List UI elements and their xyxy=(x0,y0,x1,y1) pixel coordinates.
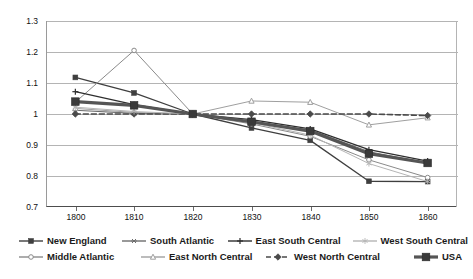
series-layer xyxy=(46,21,457,207)
legend-item-west-south-central[interactable]: West South Central xyxy=(352,233,468,248)
y-tick-label: 0.8 xyxy=(2,172,38,181)
legend-item-east-north-central[interactable]: East North Central xyxy=(140,249,265,264)
east-south-central-marker-icon xyxy=(227,235,253,247)
y-tick-label: 0.7 xyxy=(2,203,38,212)
y-tick-label: 0.9 xyxy=(2,141,38,150)
legend-row: New England South Atlantic East South Ce… xyxy=(18,233,468,248)
x-tick-label: 1860 xyxy=(404,213,452,222)
legend-item-east-south-central[interactable]: East South Central xyxy=(227,233,352,248)
x-tick-label: 1810 xyxy=(110,213,158,222)
legend-label: East North Central xyxy=(169,251,252,263)
legend-label: East South Central xyxy=(256,235,341,247)
x-tick-label: 1800 xyxy=(52,213,100,222)
west-north-central-marker-icon xyxy=(265,251,291,263)
x-tick-label: 1840 xyxy=(287,213,335,222)
x-tick xyxy=(311,207,312,211)
legend-item-middle-atlantic[interactable]: Middle Atlantic xyxy=(18,249,140,264)
x-tick-label: 1830 xyxy=(228,213,276,222)
legend-label: West South Central xyxy=(381,235,468,247)
legend-row: Middle Atlantic East North Central West … xyxy=(18,249,468,264)
legend-label: South Atlantic xyxy=(150,235,214,247)
legend-item-usa[interactable]: USA xyxy=(413,249,462,264)
legend-label: West North Central xyxy=(294,251,380,263)
chart-legend: New England South Atlantic East South Ce… xyxy=(18,233,468,269)
east-north-central-marker-icon xyxy=(140,251,166,263)
x-tick xyxy=(369,207,370,211)
west-south-central-marker-icon xyxy=(352,235,378,247)
legend-label: New England xyxy=(47,235,107,247)
legend-item-west-north-central[interactable]: West North Central xyxy=(265,249,413,264)
x-tick-label: 1820 xyxy=(169,213,217,222)
x-tick xyxy=(252,207,253,211)
x-tick xyxy=(193,207,194,211)
new-england-marker-icon xyxy=(18,235,44,247)
usa-marker-icon xyxy=(413,251,439,263)
y-tick-label: 1 xyxy=(2,110,38,119)
south-atlantic-marker-icon xyxy=(121,235,147,247)
legend-label: USA xyxy=(442,251,462,263)
legend-item-south-atlantic[interactable]: South Atlantic xyxy=(121,233,227,248)
middle-atlantic-marker-icon xyxy=(18,251,44,263)
line-chart: 1.3 1.2 1.1 1 0.9 0.8 0.7 1800 1810 1820… xyxy=(0,0,473,279)
y-tick-label: 1.3 xyxy=(2,17,38,26)
x-tick xyxy=(428,207,429,211)
x-tick-label: 1850 xyxy=(345,213,393,222)
legend-label: Middle Atlantic xyxy=(47,251,114,263)
legend-item-new-england[interactable]: New England xyxy=(18,233,121,248)
y-tick-label: 1.2 xyxy=(2,48,38,57)
series-new-england xyxy=(73,75,430,184)
x-tick xyxy=(134,207,135,211)
x-tick xyxy=(76,207,77,211)
y-tick-label: 1.1 xyxy=(2,79,38,88)
series-usa xyxy=(72,98,432,167)
